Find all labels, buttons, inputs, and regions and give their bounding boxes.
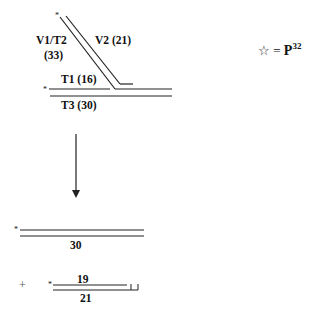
legend-equals: = (273, 43, 280, 58)
plus-sign: + (19, 278, 26, 293)
arrow-head (72, 190, 80, 198)
legend-superscript: 32 (292, 41, 301, 51)
label-t1: T1 (16) (61, 73, 96, 85)
star-marker-product-30: * (14, 226, 18, 234)
star-marker-v1t2: * (55, 12, 59, 20)
star-marker-t1: * (43, 86, 47, 94)
star-outline-icon: ☆ (258, 43, 270, 58)
label-v2: V2 (21) (95, 34, 131, 46)
star-marker-product-19: * (48, 281, 52, 289)
label-v1t2-length: (33) (44, 49, 63, 61)
label-v1t2: V1/T2 (36, 34, 67, 46)
label-product-30: 30 (70, 239, 82, 251)
label-t3: T3 (30) (61, 99, 96, 111)
legend: ☆ = P32 (258, 41, 301, 59)
label-product-19: 19 (77, 273, 89, 285)
label-product-21: 21 (80, 292, 92, 304)
